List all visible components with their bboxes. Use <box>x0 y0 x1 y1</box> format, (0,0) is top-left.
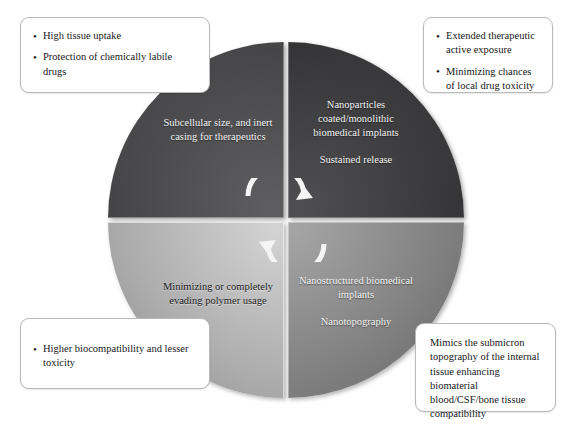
callout-top-right-list: Extended therapeutic active exposure Min… <box>436 29 542 93</box>
quadrant-top-left-text: Subcellular size, and inert casing for t… <box>158 116 278 144</box>
quadrant-top-right-main: Nanoparticles coated/monolithic biomedic… <box>296 98 416 140</box>
callout-top-left: High tissue uptake Protection of chemica… <box>20 17 210 93</box>
callout-bottom-left: Higher biocompatibility and lesser toxic… <box>20 318 210 389</box>
quadrant-bottom-left-main: Minimizing or completely evading polymer… <box>158 280 278 308</box>
list-item: Protection of chemically labile drugs <box>33 50 197 79</box>
callout-bottom-right: Mimics the submicron topography of the i… <box>415 323 556 412</box>
quadrant-bottom-right-text: Nanostructured biomedical implants Nanot… <box>296 274 416 329</box>
quadrant-bottom-right-sub: Nanotopography <box>296 315 416 329</box>
list-item: Minimizing chances of local drug toxicit… <box>436 65 542 94</box>
callout-top-left-list: High tissue uptake Protection of chemica… <box>33 29 197 79</box>
list-item: Higher biocompatibility and lesser toxic… <box>33 342 197 371</box>
quadrant-top-right-sub: Sustained release <box>296 153 416 167</box>
diagram-canvas: Subcellular size, and inert casing for t… <box>0 0 565 439</box>
list-item: Extended therapeutic active exposure <box>436 29 542 58</box>
callout-bottom-right-text: Mimics the submicron topography of the i… <box>430 336 545 422</box>
quadrant-top-left-main: Subcellular size, and inert casing for t… <box>158 116 278 144</box>
quadrant-bottom-right-main: Nanostructured biomedical implants <box>296 274 416 302</box>
callout-bottom-left-list: Higher biocompatibility and lesser toxic… <box>33 342 197 371</box>
quadrant-top-right-text: Nanoparticles coated/monolithic biomedic… <box>296 98 416 166</box>
callout-top-right: Extended therapeutic active exposure Min… <box>423 17 553 93</box>
list-item: High tissue uptake <box>33 29 197 43</box>
quadrant-bottom-left-text: Minimizing or completely evading polymer… <box>158 280 278 308</box>
